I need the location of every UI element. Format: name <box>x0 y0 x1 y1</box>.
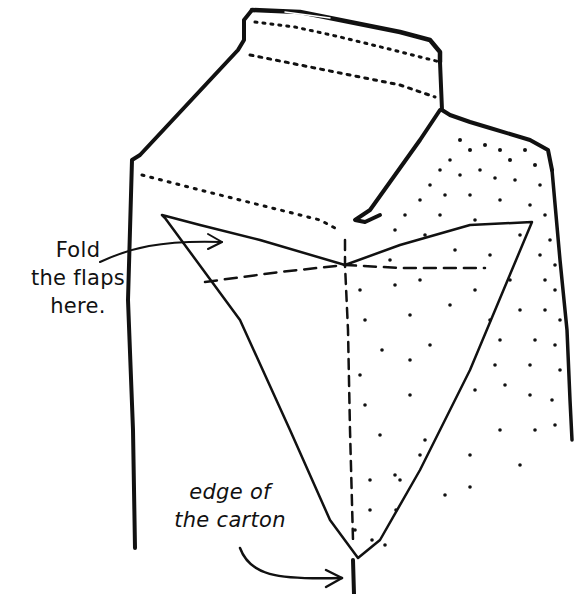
carton-spout <box>355 110 440 222</box>
edge-arrow <box>240 548 342 578</box>
stipple-shading <box>353 138 562 547</box>
fold-line-3: here. <box>8 292 148 320</box>
carton-edge-stub <box>353 560 354 594</box>
edge-line-1: edge of <box>150 478 310 506</box>
fold-flaps-annotation: Fold the flaps here. <box>8 236 148 320</box>
fin-dotted-line-1 <box>255 22 440 62</box>
front-dotted-line <box>142 175 335 228</box>
carton-illustration: Fold the flaps here. edge of the carton <box>0 0 582 594</box>
fin-dotted-line-2 <box>250 55 435 97</box>
center-dashed-edge <box>345 240 353 540</box>
carton-right-edge <box>552 170 572 440</box>
carton-fin-right <box>440 62 552 170</box>
fold-line-2: the flaps <box>8 264 148 292</box>
fold-line-1: Fold <box>8 236 148 264</box>
edge-line-2: the carton <box>150 506 310 534</box>
carton-edge-annotation: edge of the carton <box>150 478 310 534</box>
